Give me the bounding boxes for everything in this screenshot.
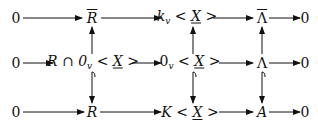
node-label-close: > (123, 53, 139, 69)
node-mid-r-cap-0v-x: R ∩ 0v < X > (47, 53, 139, 74)
node-label-open: < (92, 53, 113, 69)
node-mid-zero-left: 0 (12, 55, 21, 71)
node-label: Λ (257, 10, 267, 26)
node-label: 0 (12, 104, 21, 120)
node-label-close: > (204, 53, 220, 69)
node-mid-lambda: Λ (257, 55, 267, 71)
node-label: R (87, 104, 98, 120)
node-top-r-bar: R (87, 10, 98, 26)
node-label: 0 (12, 10, 21, 26)
node-label-x: X (113, 53, 123, 69)
node-bot-zero-right: 0 (301, 104, 310, 120)
node-top-lambda-bar: Λ (257, 10, 267, 26)
node-label-close: > (201, 8, 217, 24)
node-label-open: < (174, 53, 195, 69)
node-label-main: 0 (160, 53, 169, 69)
node-bot-r: R (87, 104, 98, 120)
node-top-kv-x: kv < X > (157, 8, 217, 29)
node-label: 0 (301, 104, 310, 120)
node-label: A (257, 104, 267, 120)
node-mid-zero-right: 0 (301, 55, 310, 71)
node-label: 0 (12, 55, 21, 71)
node-label: Λ (257, 55, 267, 71)
node-label: 0 (301, 55, 310, 71)
node-label-open: < (170, 8, 191, 24)
node-bot-zero-left: 0 (12, 104, 21, 120)
node-bot-k-x: K < X > (161, 104, 218, 120)
node-label-close: > (202, 104, 218, 120)
node-label-main: R ∩ 0 (47, 53, 87, 69)
node-top-zero-left: 0 (12, 10, 21, 26)
node-mid-0v-x: 0v < X > (160, 53, 221, 74)
hook-arrow-rcap-to-r (92, 72, 95, 103)
node-label: 0 (301, 10, 310, 26)
node-label-x: X (191, 8, 201, 24)
node-label-x: X (194, 53, 204, 69)
node-bot-a: A (257, 104, 267, 120)
hook-arrow-lambda-to-a (262, 72, 265, 103)
node-label-main: K (161, 104, 171, 120)
node-label-x: X (192, 104, 202, 120)
node-label-open: < (172, 104, 193, 120)
node-label: R (87, 10, 98, 26)
hook-arrow-0vx-to-kx (193, 72, 196, 103)
node-top-zero-right: 0 (301, 10, 310, 26)
